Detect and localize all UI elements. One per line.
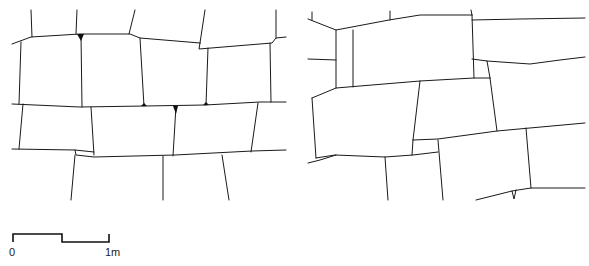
scale-label-start: 0	[9, 247, 15, 258]
left-panel	[12, 10, 286, 200]
right-panel	[308, 10, 585, 200]
wedge-filler	[203, 102, 209, 105]
scale-bar	[13, 234, 109, 242]
wedge-filler	[77, 34, 84, 41]
wedge-filler	[141, 103, 147, 106]
wall-drawing-left	[0, 0, 589, 266]
scale-label-end: 1m	[105, 247, 120, 258]
